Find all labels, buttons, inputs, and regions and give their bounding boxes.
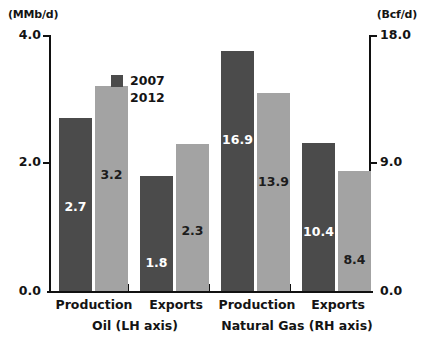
right-axis-tick-label-top: 18.0 (380, 29, 411, 42)
bar-value-label: 2.3 (176, 225, 209, 238)
bar-value-label: 1.8 (140, 257, 173, 270)
bar-gas-exports-2007[interactable]: 10.4 (302, 143, 335, 291)
bar-value-label: 16.9 (221, 134, 254, 147)
bar-value-label: 2.7 (59, 201, 92, 214)
legend-label: 2012 (130, 92, 165, 105)
right-axis-tick-label-bottom: 0.0 (380, 285, 402, 298)
bar-oil-production-2007[interactable]: 2.7 (59, 118, 92, 291)
left-axis-tick-label-mid: 2.0 (8, 156, 41, 169)
legend-swatch-icon (111, 75, 123, 87)
bar-value-label: 13.9 (257, 176, 290, 189)
bar-gas-production-2007[interactable]: 16.9 (221, 51, 254, 291)
right-tick-top (371, 35, 377, 37)
bottom-axis-line (47, 291, 373, 293)
bar-oil-exports-2012[interactable]: 2.3 (176, 144, 209, 291)
bar-value-label: 8.4 (338, 254, 371, 267)
legend-swatch-icon (111, 92, 123, 104)
right-tick-mid (371, 162, 377, 164)
bar-value-label: 10.4 (302, 226, 335, 239)
left-axis-tick-label-bottom: 0.0 (8, 285, 41, 298)
legend-item-2012[interactable]: 2012 (111, 92, 165, 105)
category-label-oil-exports: Exports (149, 297, 203, 312)
category-label-gas-exports: Exports (311, 297, 365, 312)
group-label-natural-gas: Natural Gas (RH axis) (221, 318, 373, 333)
bar-chart: (MMb/d) (Bcf/d) 2.7 3.2 1.8 2 (0, 0, 423, 342)
legend-item-2007[interactable]: 2007 (111, 75, 165, 88)
left-axis-tick-label-top: 4.0 (8, 29, 41, 42)
group-label-oil: Oil (LH axis) (92, 318, 178, 333)
category-label-oil-production: Production (56, 297, 133, 312)
left-tick-top (43, 35, 49, 37)
bar-gas-production-2012[interactable]: 13.9 (257, 93, 290, 291)
left-tick-mid (43, 162, 49, 164)
left-axis-unit-label: (MMb/d) (8, 8, 58, 21)
left-axis-line (49, 35, 51, 291)
legend: 2007 2012 (111, 75, 165, 108)
legend-label: 2007 (130, 75, 165, 88)
bar-value-label: 3.2 (95, 169, 128, 182)
bar-gas-exports-2012[interactable]: 8.4 (338, 171, 371, 291)
category-label-gas-production: Production (219, 297, 296, 312)
bar-oil-production-2012[interactable]: 3.2 (95, 86, 128, 291)
bar-oil-exports-2007[interactable]: 1.8 (140, 176, 173, 291)
right-axis-tick-label-mid: 9.0 (380, 156, 402, 169)
right-axis-unit-label: (Bcf/d) (377, 8, 417, 21)
plot-area: 2.7 3.2 1.8 2.3 16.9 13.9 10.4 8.4 (49, 35, 371, 291)
